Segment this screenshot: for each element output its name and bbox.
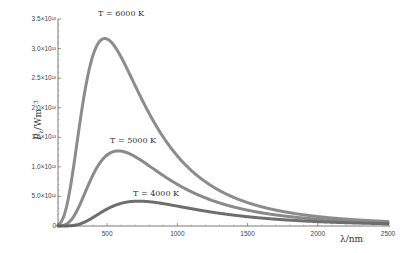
y-tick-label: 2.5×10¹³ xyxy=(32,74,57,81)
y-tick-label: 5.0×10¹² xyxy=(32,192,57,199)
blackbody-radiation-chart: 05.0×10¹²1.0×10¹³1.5×10¹³2.0×10¹³2.5×10¹… xyxy=(0,0,404,253)
x-axis-label: λ/nm xyxy=(340,234,364,244)
annotation-5000k: T = 5000 K xyxy=(110,136,157,145)
y-tick-label: 3.0×10¹³ xyxy=(32,45,57,52)
plot-curves xyxy=(58,39,388,226)
x-tick-label: 2000 xyxy=(311,230,326,237)
y-tick-label: 0 xyxy=(52,222,56,229)
x-tick-label: 1000 xyxy=(170,230,185,237)
x-tick-label: 2500 xyxy=(381,230,396,237)
annotation-4000k: T = 4000 K xyxy=(133,189,180,198)
x-tick-label: 500 xyxy=(102,230,113,237)
y-tick-label: 3.5×10¹³ xyxy=(32,15,57,22)
curve-6000k xyxy=(58,39,388,225)
annotation-6000k: T = 6000 K xyxy=(98,9,145,18)
x-tick-label: 1500 xyxy=(240,230,255,237)
axes: 05.0×10¹²1.0×10¹³1.5×10¹³2.0×10¹³2.5×10¹… xyxy=(32,15,396,237)
y-tick-label: 1.0×10¹³ xyxy=(32,163,57,170)
